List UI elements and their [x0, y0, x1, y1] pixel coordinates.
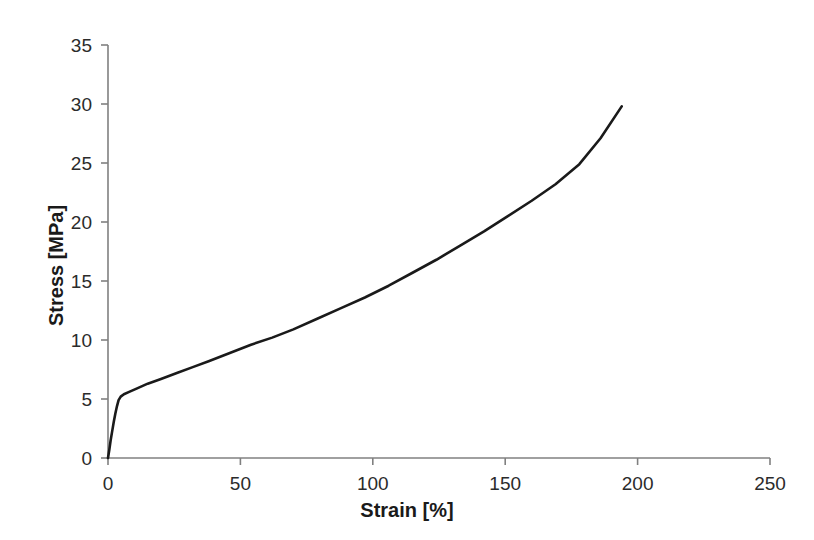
x-tick-label: 150 [489, 474, 521, 493]
y-tick-label: 5 [40, 390, 92, 409]
y-tick-label: 35 [40, 36, 92, 55]
x-tick-label: 0 [103, 474, 114, 493]
y-axis-ticks [101, 45, 108, 458]
stress-strain-chart: 05101520253035 050100150200250 Strain [%… [0, 0, 814, 540]
y-tick-label: 25 [40, 154, 92, 173]
x-tick-label: 100 [357, 474, 389, 493]
y-tick-label: 10 [40, 331, 92, 350]
y-axis-title: Stress [MPa] [46, 205, 66, 326]
x-tick-label: 200 [622, 474, 654, 493]
data-series-group [108, 106, 622, 458]
x-tick-label: 250 [754, 474, 786, 493]
x-axis-title: Strain [%] [0, 500, 814, 520]
y-tick-label: 0 [40, 449, 92, 468]
y-tick-label: 30 [40, 95, 92, 114]
axes-group [108, 45, 770, 458]
x-axis-ticks [108, 458, 770, 465]
chart-canvas [0, 0, 814, 540]
x-tick-label: 50 [230, 474, 251, 493]
data-line-stress-strain [108, 106, 622, 458]
